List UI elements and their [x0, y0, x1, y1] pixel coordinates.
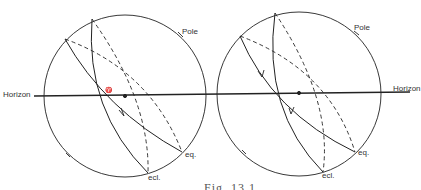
- left-arrow-icon: [119, 108, 124, 116]
- eq-label-left: eq.: [185, 150, 196, 159]
- vernal-equinox-symbol: ♈: [105, 86, 112, 93]
- horizon-label-left: Horizon: [3, 90, 31, 99]
- left-ecliptic-solid: [91, 19, 148, 173]
- pole-label-left: Pole: [182, 27, 198, 36]
- horizon-label-right: Horizon: [393, 84, 421, 93]
- figure-caption: Fig. 13.1: [204, 181, 256, 190]
- pole-label-right: Pole: [354, 23, 370, 32]
- horizon-line: [34, 92, 410, 96]
- ecl-label-right: ecl.: [322, 171, 334, 180]
- left-center-dot: [123, 94, 126, 97]
- right-center-dot: [297, 91, 300, 94]
- eq-label-right: eq.: [358, 148, 369, 157]
- ecl-label-left: ecl.: [148, 173, 160, 182]
